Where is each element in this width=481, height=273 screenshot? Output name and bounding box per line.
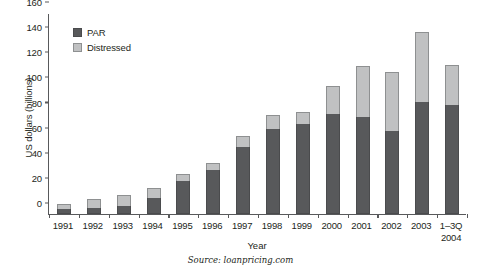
x-tick-mark bbox=[258, 214, 259, 218]
x-axis-label: 1997 bbox=[232, 220, 252, 231]
x-tick-mark bbox=[467, 214, 468, 218]
bar-group bbox=[176, 174, 190, 214]
bar-segment-par bbox=[206, 170, 220, 214]
bar-segment-par bbox=[57, 209, 71, 214]
x-tick-mark bbox=[377, 214, 378, 218]
bar-segment-distressed bbox=[385, 72, 399, 131]
bar-segment-distressed bbox=[206, 163, 220, 171]
bar-segment-distressed bbox=[445, 65, 459, 105]
x-tick-mark bbox=[109, 214, 110, 218]
legend-item-distressed: Distressed bbox=[73, 41, 131, 54]
x-tick-mark bbox=[228, 214, 229, 218]
x-tick-mark bbox=[288, 214, 289, 218]
y-tick-label: 140 bbox=[20, 22, 42, 33]
y-tick: 20 bbox=[20, 172, 49, 183]
bar-segment-distressed bbox=[415, 32, 429, 102]
bar-segment-par bbox=[356, 117, 370, 214]
legend-swatch-par bbox=[73, 28, 82, 37]
legend-item-par: PAR bbox=[73, 26, 131, 39]
y-tick-label: 0 bbox=[20, 198, 42, 209]
legend-label: PAR bbox=[87, 27, 106, 38]
legend-swatch-distressed bbox=[73, 43, 82, 52]
x-axis-label: 1993 bbox=[112, 220, 132, 231]
bar-segment-par bbox=[326, 114, 340, 215]
y-tick: 40 bbox=[20, 147, 49, 158]
x-axis-label: 1994 bbox=[142, 220, 162, 231]
source-note: Source: loanpricing.com bbox=[0, 255, 481, 265]
x-tick-mark bbox=[79, 214, 80, 218]
x-tick-mark bbox=[198, 214, 199, 218]
bar-group bbox=[87, 199, 101, 214]
bar-segment-distressed bbox=[266, 115, 280, 129]
bar-segment-par bbox=[236, 147, 250, 214]
bar-group bbox=[266, 115, 280, 214]
bar-segment-par bbox=[296, 124, 310, 214]
bar-group bbox=[296, 112, 310, 214]
bar-segment-distressed bbox=[296, 112, 310, 123]
y-tick: 60 bbox=[20, 122, 49, 133]
x-tick-mark bbox=[318, 214, 319, 218]
y-tick-label: 40 bbox=[20, 147, 42, 158]
x-tick-mark bbox=[139, 214, 140, 218]
bar-group bbox=[57, 204, 71, 214]
bar-segment-par bbox=[176, 181, 190, 214]
x-axis-label: 1992 bbox=[83, 220, 103, 231]
bar-segment-distressed bbox=[356, 66, 370, 118]
x-tick-mark bbox=[348, 214, 349, 218]
y-tick-label: 20 bbox=[20, 172, 42, 183]
y-tick: 80 bbox=[20, 97, 49, 108]
y-tick-label: 60 bbox=[20, 122, 42, 133]
x-axis-label: 1996 bbox=[202, 220, 222, 231]
y-tick-mark bbox=[45, 1, 49, 2]
y-tick: 0 bbox=[20, 198, 49, 209]
x-tick-mark bbox=[407, 214, 408, 218]
bar-segment-distressed bbox=[117, 195, 131, 206]
x-tick-mark bbox=[168, 214, 169, 218]
bar-group bbox=[147, 188, 161, 214]
bar-segment-distressed bbox=[326, 86, 340, 114]
chart-legend: PARDistressed bbox=[73, 26, 131, 56]
bar-segment-distressed bbox=[236, 136, 250, 147]
bar-group bbox=[415, 32, 429, 214]
bar-segment-par bbox=[445, 105, 459, 214]
y-axis-title: US dollars (billions) bbox=[23, 43, 34, 193]
x-axis-label: 2000 bbox=[321, 220, 341, 231]
bar-segment-par bbox=[87, 208, 101, 214]
y-tick: 120 bbox=[20, 47, 49, 58]
bar-group bbox=[326, 86, 340, 214]
bar-group bbox=[236, 136, 250, 214]
legend-label: Distressed bbox=[87, 42, 131, 53]
x-axis-title: Year bbox=[48, 240, 466, 251]
bar-group bbox=[117, 195, 131, 214]
bar-segment-par bbox=[117, 206, 131, 214]
x-axis-label: 1991 bbox=[53, 220, 73, 231]
bar-group bbox=[445, 65, 459, 214]
y-tick-label: 160 bbox=[20, 0, 42, 8]
bar-group bbox=[356, 66, 370, 214]
stacked-bar-chart: US dollars (billions) 020406080100120140… bbox=[0, 0, 481, 273]
bar-group bbox=[206, 163, 220, 215]
x-axis-label: 1999 bbox=[292, 220, 312, 231]
x-axis-label: 2002 bbox=[381, 220, 401, 231]
bar-segment-par bbox=[415, 102, 429, 214]
bar-segment-par bbox=[385, 131, 399, 214]
y-tick-label: 100 bbox=[20, 72, 42, 83]
x-axis-label: 1995 bbox=[172, 220, 192, 231]
y-tick-label: 80 bbox=[20, 97, 42, 108]
y-tick: 140 bbox=[20, 22, 49, 33]
x-tick-mark bbox=[437, 214, 438, 218]
x-axis-label: 2001 bbox=[351, 220, 371, 231]
bar-segment-distressed bbox=[87, 199, 101, 208]
y-tick: 160 bbox=[20, 0, 49, 8]
x-axis-label: 2003 bbox=[411, 220, 431, 231]
bar-segment-distressed bbox=[147, 188, 161, 198]
bar-segment-par bbox=[266, 129, 280, 214]
bar-segment-par bbox=[147, 198, 161, 214]
y-tick: 100 bbox=[20, 72, 49, 83]
bar-segment-distressed bbox=[176, 174, 190, 182]
bar-group bbox=[385, 72, 399, 214]
x-axis-label: 1998 bbox=[262, 220, 282, 231]
y-tick-label: 120 bbox=[20, 47, 42, 58]
x-tick-mark bbox=[49, 214, 50, 218]
